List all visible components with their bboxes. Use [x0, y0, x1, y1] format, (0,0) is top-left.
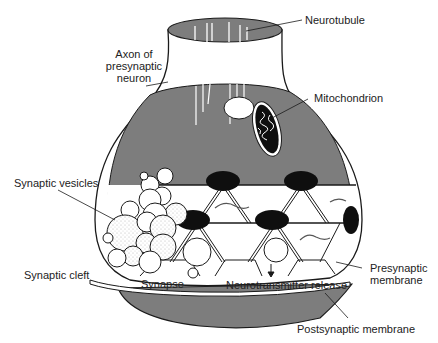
- label-axon-line1: Axon of: [98, 48, 170, 60]
- label-neurotransmitter-release: Neurotransmitter release: [226, 279, 347, 291]
- label-synaptic-vesicles: Synaptic vesicles: [14, 177, 98, 189]
- label-synaptic-cleft: Synaptic cleft: [24, 269, 89, 281]
- label-presynaptic-line2: membrane: [370, 274, 427, 286]
- label-axon-line2: presynaptic: [98, 60, 170, 72]
- label-synapse: Synapse: [141, 278, 184, 290]
- synapse-diagram: [0, 0, 438, 343]
- label-axon: Axon of presynaptic neuron: [98, 48, 170, 84]
- label-postsynaptic-membrane: Postsynaptic membrane: [297, 323, 415, 335]
- label-presynaptic-membrane: Presynaptic membrane: [370, 262, 427, 286]
- label-mitochondrion: Mitochondrion: [314, 92, 383, 104]
- label-axon-line3: neuron: [98, 72, 170, 84]
- label-presynaptic-line1: Presynaptic: [370, 262, 427, 274]
- label-neurotubule: Neurotubule: [305, 14, 365, 26]
- axon-cross-section: [168, 18, 282, 42]
